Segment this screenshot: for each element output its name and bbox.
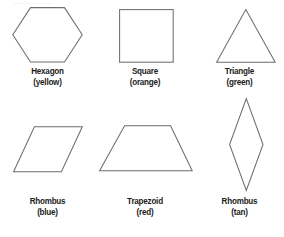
shape-cell-triangle: Triangle (green) bbox=[195, 0, 284, 100]
shape-label-rhombus-tan: Rhombus (tan) bbox=[195, 196, 284, 219]
shape-name: Rhombus bbox=[200, 196, 278, 207]
shape-label-rhombus-blue: Rhombus (blue) bbox=[0, 196, 95, 219]
shape-label-trapezoid: Trapezoid (red) bbox=[95, 196, 195, 219]
shape-name: Square bbox=[101, 66, 189, 77]
shape-color: (red) bbox=[101, 207, 189, 218]
triangle-icon bbox=[216, 9, 276, 63]
shape-cell-rhombus-tan: Rhombus (tan) bbox=[195, 90, 284, 237]
rhombus-wide-icon bbox=[13, 126, 83, 173]
shape-name: Hexagon bbox=[6, 66, 90, 77]
hexagon-icon bbox=[12, 7, 83, 63]
trapezoid-icon bbox=[99, 125, 193, 172]
square-icon bbox=[119, 9, 174, 63]
shape-name: Rhombus bbox=[6, 196, 90, 207]
shape-cell-rhombus-blue: Rhombus (blue) bbox=[0, 118, 95, 237]
shape-color: (orange) bbox=[101, 77, 189, 88]
rhombus-narrow-icon bbox=[229, 98, 264, 191]
shapes-figure: —— —— — ——— Hexagon (yellow) Square (ora… bbox=[0, 0, 284, 237]
shape-name: Trapezoid bbox=[101, 196, 189, 207]
shape-cell-trapezoid: Trapezoid (red) bbox=[95, 118, 195, 237]
shape-color: (green) bbox=[200, 77, 278, 88]
shape-color: (tan) bbox=[200, 207, 278, 218]
shape-label-hexagon: Hexagon (yellow) bbox=[0, 66, 95, 89]
shape-color: (yellow) bbox=[6, 77, 90, 88]
shape-name: Triangle bbox=[200, 66, 278, 77]
shape-cell-square: Square (orange) bbox=[95, 0, 195, 100]
shape-cell-hexagon: Hexagon (yellow) bbox=[0, 0, 95, 100]
shape-label-square: Square (orange) bbox=[95, 66, 195, 89]
shape-color: (blue) bbox=[6, 207, 90, 218]
shape-label-triangle: Triangle (green) bbox=[195, 66, 284, 89]
